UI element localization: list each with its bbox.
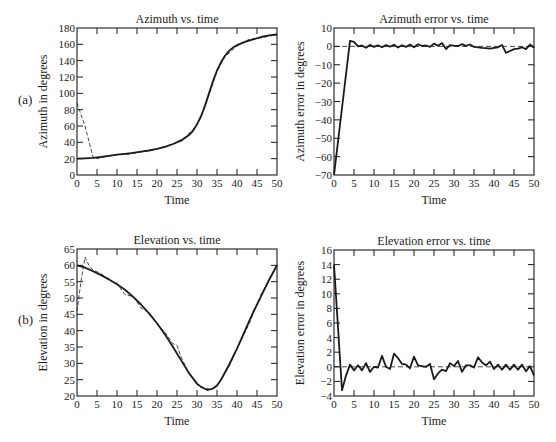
chart-title: Azimuth vs. time [136,12,219,26]
x-tick-label: 10 [112,398,124,410]
x-tick-label: 20 [409,398,421,410]
x-tick-label: 5 [94,177,100,189]
series-elevation-error [334,265,534,391]
x-tick-label: 10 [369,177,381,189]
y-tick-label: 0 [327,361,333,373]
y-tick-label: 120 [59,71,76,83]
x-tick-label: 40 [232,398,244,410]
x-tick-label: 35 [212,177,224,189]
y-tick-label: −30 [315,96,333,108]
y-tick-label: 10 [321,22,333,34]
x-tick-label: 35 [212,398,224,410]
x-tick-label: 35 [469,398,481,410]
y-tick-label: 14 [321,259,333,271]
y-tick-label: 4 [327,332,333,344]
y-tick-label: 20 [64,153,76,165]
x-tick-label: 0 [74,177,80,189]
x-tick-label: 20 [152,398,164,410]
chart-elevation-error: Elevation error vs. timeTimeElevation er… [293,234,540,428]
x-tick-label: 50 [272,177,284,189]
chart-azimuth-error: Azimuth error vs. timeTimeAzimuth error … [293,12,540,207]
y-tick-label: −10 [315,59,333,71]
y-tick-label: −4 [320,390,332,402]
y-tick-label: 20 [64,390,76,402]
x-tick-label: 50 [272,398,284,410]
x-tick-label: 25 [172,177,184,189]
y-tick-label: 2 [327,346,333,358]
y-tick-label: 60 [64,259,76,271]
y-tick-label: 8 [327,302,333,314]
x-tick-label: 45 [509,177,521,189]
x-tick-label: 50 [529,177,541,189]
x-tick-label: 20 [152,177,164,189]
y-tick-label: 160 [59,38,76,50]
plot-frame [77,249,277,396]
x-tick-label: 15 [132,398,144,410]
y-tick-label: 35 [64,341,76,353]
charts-canvas: Azimuth vs. timeTimeAzimuth in degrees05… [0,0,556,442]
x-tick-label: 30 [192,177,204,189]
x-tick-label: 35 [469,177,481,189]
y-tick-label: −20 [315,77,333,89]
y-axis-label: Azimuth in degrees [36,54,50,148]
plot-frame [334,250,534,396]
series-true-azimuth [77,35,277,159]
y-tick-label: 12 [321,273,332,285]
y-axis-label: Elevation error in degrees [293,261,307,386]
y-tick-label: 10 [321,288,333,300]
x-tick-label: 15 [389,398,401,410]
y-tick-label: −50 [315,132,333,144]
y-tick-label: 25 [64,374,76,386]
y-tick-label: 180 [59,22,76,34]
x-tick-label: 5 [94,398,100,410]
x-tick-label: 5 [351,398,357,410]
x-tick-label: 0 [331,177,337,189]
y-tick-label: 45 [64,308,76,320]
x-axis-label: Time [422,193,447,207]
y-tick-label: 140 [59,55,76,67]
y-tick-label: 100 [59,87,76,99]
x-tick-label: 15 [132,177,144,189]
series-azimuth-error [334,41,534,175]
x-tick-label: 40 [489,177,501,189]
x-tick-label: 25 [429,177,441,189]
y-tick-label: −40 [315,114,333,126]
y-tick-label: 0 [327,40,333,52]
y-tick-label: 40 [64,136,76,148]
x-axis-label: Time [422,414,447,428]
y-tick-label: 55 [64,276,76,288]
y-tick-label: 80 [64,104,76,116]
x-tick-label: 45 [252,177,264,189]
y-tick-label: −2 [320,375,332,387]
x-tick-label: 50 [529,398,541,410]
x-tick-label: 15 [389,177,401,189]
y-tick-label: 30 [64,357,76,369]
y-axis-label: Azimuth error in degrees [293,41,307,162]
chart-elevation: Elevation vs. timeTimeElevation in degre… [36,233,283,428]
x-tick-label: 30 [449,398,461,410]
plot-frame [77,28,277,175]
chart-title: Elevation error vs. time [377,234,490,248]
series-estimated-azimuth [77,35,277,159]
chart-azimuth: Azimuth vs. timeTimeAzimuth in degrees05… [36,12,283,207]
y-tick-label: 60 [64,120,76,132]
x-tick-label: 10 [112,177,124,189]
y-tick-label: −60 [315,151,333,163]
y-tick-label: 0 [70,169,76,181]
x-tick-label: 5 [351,177,357,189]
x-tick-label: 10 [369,398,381,410]
chart-title: Azimuth error vs. time [379,12,488,26]
x-tick-label: 25 [429,398,441,410]
x-tick-label: 30 [449,177,461,189]
x-tick-label: 45 [509,398,521,410]
y-tick-label: 6 [327,317,333,329]
x-axis-label: Time [165,414,190,428]
y-tick-label: 50 [64,292,76,304]
x-tick-label: 40 [489,398,501,410]
x-tick-label: 0 [74,398,80,410]
x-tick-label: 20 [409,177,421,189]
y-tick-label: 16 [321,244,333,256]
x-tick-label: 0 [331,398,337,410]
x-tick-label: 40 [232,177,244,189]
y-tick-label: 40 [64,325,76,337]
